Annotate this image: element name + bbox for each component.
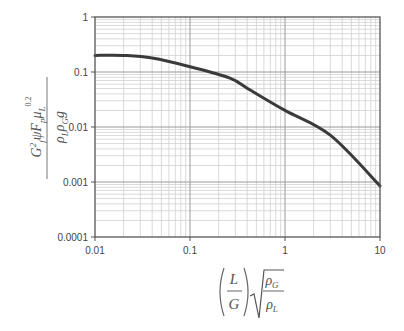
svg-text:ρG: ρG — [264, 273, 279, 290]
y-tick-label: 0.1 — [74, 67, 88, 78]
x-tick-label: 10 — [374, 245, 386, 256]
svg-text:ρLρGg: ρLρGg — [52, 111, 70, 144]
x-axis-label: L G ρG ρL — [220, 268, 284, 318]
x-tick-label: 0.1 — [183, 245, 197, 256]
svg-text:G2fψFpμL0.2: G2fψFpμL0.2 — [24, 97, 47, 158]
x-axis-ticks: 0.010.1110 — [85, 237, 386, 256]
svg-text:ρL: ρL — [265, 297, 278, 314]
y-tick-label: 0.01 — [69, 122, 89, 133]
y-axis-label: G2fψFpμL0.2 ρLρGg — [24, 77, 70, 179]
svg-text:G: G — [229, 296, 240, 312]
y-tick-label: 0.001 — [63, 177, 88, 188]
y-tick-label: 1 — [82, 12, 88, 23]
y-tick-label: 0.0001 — [57, 232, 88, 243]
flooding-chart: 10.10.010.0010.0001 0.010.1110 G2fψFpμL0… — [0, 0, 404, 331]
x-tick-label: 1 — [282, 245, 288, 256]
x-tick-label: 0.01 — [85, 245, 105, 256]
svg-text:L: L — [229, 271, 238, 287]
